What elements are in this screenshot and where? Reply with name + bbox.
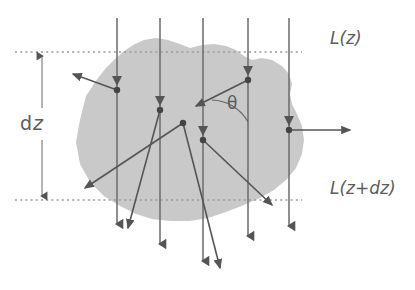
thickness-label-z: z xyxy=(33,112,44,134)
scattering-point-4 xyxy=(245,77,251,83)
top-boundary-label: L(z) xyxy=(330,28,362,48)
scattering-point-3 xyxy=(180,120,186,126)
scattering-point-6 xyxy=(286,127,292,133)
thickness-label-d: d xyxy=(20,112,33,134)
scattering-angle-label: θ xyxy=(227,93,237,113)
scattering-medium-blob xyxy=(76,38,304,221)
scattering-point-1 xyxy=(114,87,120,93)
scattering-point-2 xyxy=(157,107,163,113)
thickness-label-dz: dz xyxy=(20,112,44,134)
scattering-point-5 xyxy=(200,137,206,143)
radiative-transfer-diagram: L(z) L(z+dz) dz θ xyxy=(0,0,415,290)
bottom-boundary-label: L(z+dz) xyxy=(330,178,396,198)
